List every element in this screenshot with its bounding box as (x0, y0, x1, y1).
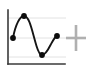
chart-icon-thumbnail (0, 0, 87, 74)
data-point-marker-1 (21, 13, 27, 19)
data-point-marker-2 (39, 52, 45, 58)
data-point-marker-0 (10, 35, 16, 41)
chart-plot-area (0, 0, 87, 74)
data-point-marker-3 (54, 33, 60, 39)
